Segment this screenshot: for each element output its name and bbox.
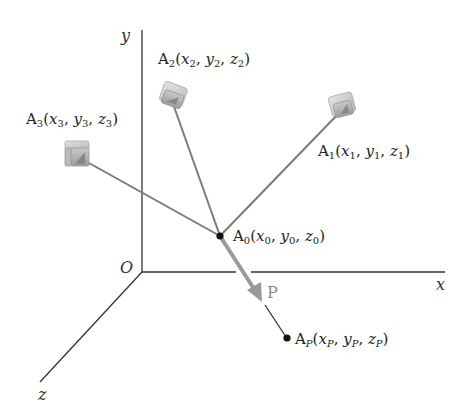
point-name: A	[158, 50, 169, 68]
point-label-a3: A3(x3, y3, z3)	[26, 112, 118, 129]
point-label-a1: A1(x1, y1, z1)	[318, 144, 410, 161]
ray-a0-a2	[172, 101, 220, 236]
point-a0	[216, 232, 223, 239]
point-name: A	[233, 227, 244, 245]
z-axis	[40, 272, 142, 382]
ray-a0-a3	[80, 158, 220, 236]
point-label-a2: A2(x2, y2, z2)	[158, 52, 250, 69]
point-name: A	[295, 330, 306, 348]
point-name: A	[318, 142, 329, 160]
anchor-icon-a3	[65, 141, 89, 166]
z-axis-label: z	[38, 387, 46, 403]
point-label-ap: AP(xP, yP, zP)	[295, 332, 388, 349]
point-name: A	[26, 110, 37, 128]
point-label-a0: A0(x0, y0, z0)	[233, 229, 325, 246]
anchor-icon-a2	[158, 81, 188, 110]
x-axis-label: x	[436, 277, 445, 293]
anchor-rays	[80, 101, 340, 236]
y-axis-label: y	[121, 28, 130, 44]
ray-a0-a1	[220, 112, 340, 236]
anchor-icon-a1	[328, 91, 357, 118]
line-p-to-ap	[265, 305, 286, 337]
origin-label: O	[120, 260, 133, 276]
point-ap	[283, 334, 290, 341]
vector-p-label: P	[267, 285, 278, 301]
